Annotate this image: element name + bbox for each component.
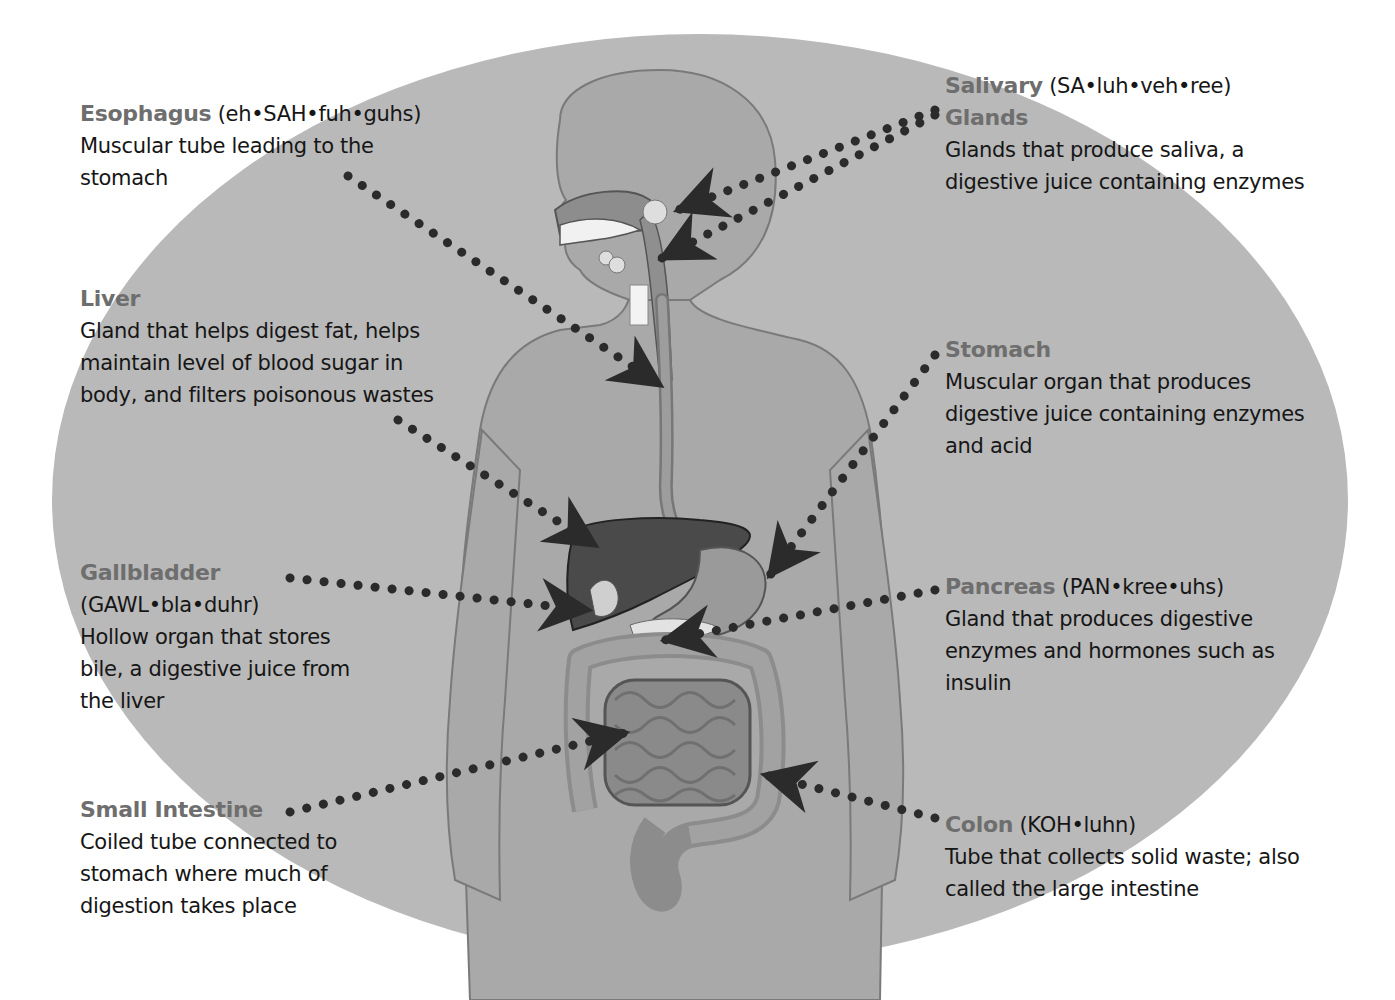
term-salivary: Salivary <box>945 73 1043 98</box>
label-salivary-glands: Salivary (SA•luh•veh•ree) Glands Glands … <box>945 70 1345 198</box>
description-stomach: Muscular organ that produces digestive j… <box>945 366 1330 462</box>
small-intestine-organ <box>605 680 750 805</box>
description-salivary-glands: Glands that produce saliva, a digestive … <box>945 134 1330 198</box>
term-glands: Glands <box>945 105 1028 130</box>
term-gallbladder: Gallbladder <box>80 560 220 585</box>
term-pancreas: Pancreas <box>945 574 1055 599</box>
term-esophagus: Esophagus <box>80 101 211 126</box>
label-gallbladder: Gallbladder (GAWL•bla•duhr) Hollow organ… <box>80 557 380 717</box>
pronunciation-salivary: (SA•luh•veh•ree) <box>1049 74 1231 98</box>
gallbladder-organ <box>590 580 618 616</box>
label-stomach: Stomach Muscular organ that produces dig… <box>945 334 1345 462</box>
pronunciation-colon: (KOH•luhn) <box>1019 813 1135 837</box>
pronunciation-gallbladder: (GAWL•bla•duhr) <box>80 593 259 617</box>
label-small-intestine: Small Intestine Coiled tube connected to… <box>80 794 380 922</box>
description-esophagus: Muscular tube leading to the stomach <box>80 130 400 194</box>
description-pancreas: Gland that produces digestive enzymes an… <box>945 603 1305 699</box>
term-stomach: Stomach <box>945 337 1051 362</box>
label-liver: Liver Gland that helps digest fat, helps… <box>80 283 460 411</box>
label-colon: Colon (KOH•luhn) Tube that collects soli… <box>945 809 1345 905</box>
term-small-intestine: Small Intestine <box>80 797 263 822</box>
digestive-system-diagram: Esophagus (eh•SAH•fuh•guhs) Muscular tub… <box>0 0 1395 1000</box>
label-esophagus: Esophagus (eh•SAH•fuh•guhs) Muscular tub… <box>80 98 440 194</box>
term-colon: Colon <box>945 812 1013 837</box>
term-liver: Liver <box>80 286 140 311</box>
pronunciation-esophagus: (eh•SAH•fuh•guhs) <box>218 102 421 126</box>
description-gallbladder: Hollow organ that stores bile, a digesti… <box>80 621 370 717</box>
pronunciation-pancreas: (PAN•kree•uhs) <box>1062 575 1224 599</box>
description-small-intestine: Coiled tube connected to stomach where m… <box>80 826 365 922</box>
label-pancreas: Pancreas (PAN•kree•uhs) Gland that produ… <box>945 571 1325 699</box>
description-liver: Gland that helps digest fat, helps maint… <box>80 315 455 411</box>
description-colon: Tube that collects solid waste; also cal… <box>945 841 1335 905</box>
